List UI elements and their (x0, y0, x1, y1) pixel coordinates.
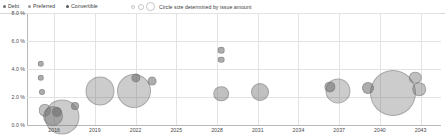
legend-marker-debt (3, 5, 6, 8)
x-axis-tick-label: 2043 (415, 127, 427, 133)
bubble-point[interactable] (86, 76, 115, 105)
bubble-point[interactable] (71, 102, 79, 110)
size-legend-circle-medium-icon (138, 4, 144, 10)
bubble-point[interactable] (412, 83, 426, 97)
gridline-vertical (136, 13, 137, 125)
gridline-horizontal (27, 69, 441, 70)
bubble-point[interactable] (52, 107, 62, 117)
legend-marker-preferred (28, 5, 31, 8)
size-legend-circle-small-icon (131, 5, 135, 9)
x-axis-tick-label: 2019 (89, 127, 101, 133)
plot-area: 8.0 %6.0 %4.0 %2.0 %0.0 % 20162019202220… (0, 13, 445, 139)
gridline-vertical (298, 13, 299, 125)
chart-legend: Debt Preferred Convertible Circle size d… (0, 0, 445, 13)
x-axis-tick-label: 2031 (252, 127, 264, 133)
x-axis-tick-label: 2034 (293, 127, 305, 133)
bubble-point[interactable] (39, 89, 45, 95)
bubble-point[interactable] (251, 83, 269, 101)
legend-item-convertible[interactable]: Convertible (66, 1, 98, 12)
y-axis-tick-label: 2.0 % (11, 94, 25, 100)
bubble-point[interactable] (37, 61, 43, 67)
bubble-point[interactable] (218, 47, 225, 54)
bubble-point[interactable] (37, 75, 43, 81)
y-axis-tick-label: 0.0 % (11, 122, 25, 128)
bubble-point[interactable] (362, 82, 374, 94)
legend-label-preferred: Preferred (33, 3, 55, 10)
gridline-vertical (258, 13, 259, 125)
gridline-vertical (95, 13, 96, 125)
x-axis-labels: 2016201920222025202820312034203720402043 (27, 125, 441, 139)
x-axis-tick-label: 2025 (170, 127, 182, 133)
legend-item-preferred[interactable]: Preferred (28, 1, 55, 12)
size-legend: Circle size determined by issue amount (131, 1, 251, 12)
legend-label-debt: Debt (8, 3, 19, 10)
size-legend-circle-large-icon (146, 2, 155, 11)
y-axis-labels: 8.0 %6.0 %4.0 %2.0 %0.0 % (0, 13, 27, 125)
y-axis-tick-label: 4.0 % (11, 66, 25, 72)
x-axis-tick-label: 2040 (374, 127, 386, 133)
gridline-vertical (217, 13, 218, 125)
x-axis-tick-label: 2028 (211, 127, 223, 133)
bubble-point[interactable] (147, 76, 156, 85)
gridline-vertical (421, 13, 422, 125)
x-axis-tick-label: 2022 (130, 127, 142, 133)
bubble-point[interactable] (218, 57, 225, 64)
x-axis-tick-label: 2037 (333, 127, 345, 133)
size-legend-text: Circle size determined by issue amount (159, 4, 251, 10)
legend-marker-convertible (66, 5, 69, 8)
plot-canvas (27, 13, 441, 125)
y-axis-tick-label: 6.0 % (11, 38, 25, 44)
x-axis-tick-label: 2016 (48, 127, 60, 133)
bubble-chart: Debt Preferred Convertible Circle size d… (0, 0, 445, 139)
gridline-vertical (176, 13, 177, 125)
y-axis-tick-label: 8.0 % (11, 10, 25, 16)
gridline-vertical (339, 13, 340, 125)
gridline-horizontal (27, 13, 441, 14)
gridline-horizontal (27, 41, 441, 42)
legend-label-convertible: Convertible (71, 3, 98, 10)
bubble-point[interactable] (213, 86, 229, 102)
